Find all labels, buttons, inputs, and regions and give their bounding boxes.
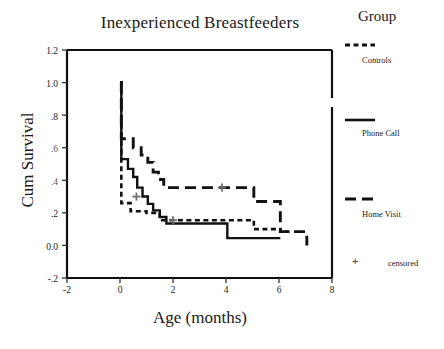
survival-chart-figure: Inexperienced Breastfeeders Group Cum Su… xyxy=(0,0,444,349)
series-line-controls xyxy=(120,83,290,232)
censored-markers-layer xyxy=(132,184,226,225)
censored-mark-phone-call-0 xyxy=(132,193,140,201)
series-line-phone-call xyxy=(120,83,280,239)
plot-canvas xyxy=(0,0,444,349)
censored-mark-home-visit-0 xyxy=(218,184,226,192)
legend-swatches xyxy=(345,45,375,199)
axis-frame xyxy=(66,50,332,278)
series-layer xyxy=(120,83,307,246)
